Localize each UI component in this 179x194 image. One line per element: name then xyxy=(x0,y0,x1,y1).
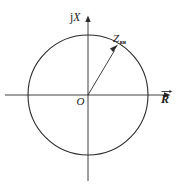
real-axis-label: R xyxy=(160,92,169,106)
imaginary-axis-label-symbol: X xyxy=(72,11,81,23)
origin-label: O xyxy=(77,95,85,107)
figure-canvas: jX R O Zвн xyxy=(0,0,179,194)
impedance-vector-label: Zвн xyxy=(113,32,127,45)
real-axis-label-vector-bar-arrowhead xyxy=(169,90,172,93)
real-axis-label-group: R xyxy=(160,90,172,106)
impedance-vector-line xyxy=(88,51,115,96)
imaginary-axis-arrowhead xyxy=(85,16,90,23)
impedance-circle-figure: jX R O Zвн xyxy=(0,0,179,194)
imaginary-axis xyxy=(85,16,90,182)
imaginary-axis-label: jX xyxy=(69,11,81,24)
impedance-vector xyxy=(88,45,118,96)
impedance-vector-label-subscript: вн xyxy=(120,39,127,45)
